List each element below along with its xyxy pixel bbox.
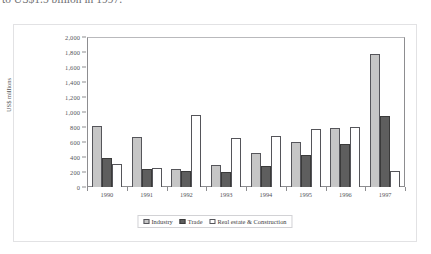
y-axis-labels: 02004006008001,0001,2001,4001,6001,8002,…: [14, 37, 86, 187]
legend-swatch-icon: [180, 219, 186, 225]
legend-item-industry[interactable]: Industry: [143, 218, 172, 225]
y-axis-tick-mark: [82, 52, 86, 53]
x-axis-tick-mark: [405, 187, 406, 191]
y-axis-tick-mark: [82, 97, 86, 98]
y-axis-tick-label: 600: [70, 139, 80, 146]
legend-label: Trade: [188, 218, 203, 225]
y-axis-tick-label: 1,800: [65, 49, 80, 56]
legend-label: Real estate & Construction: [217, 218, 286, 225]
x-axis-label-1995: 1995: [286, 191, 326, 198]
legend-item-trade[interactable]: Trade: [180, 218, 203, 225]
x-axis-label-1997: 1997: [365, 191, 405, 198]
y-axis-tick-mark: [82, 37, 86, 38]
x-axis-label-1993: 1993: [206, 191, 246, 198]
chart-figure: US$ millions 02004006008001,0001,2001,40…: [13, 24, 417, 242]
plot-inner: [88, 38, 404, 186]
y-axis-tick-mark: [82, 187, 86, 188]
y-axis-title: US$ millions: [5, 78, 12, 112]
y-axis-tick-label: 0: [77, 184, 80, 191]
y-axis-tick-mark: [82, 157, 86, 158]
caption-strip: to US$1.5 billion in 1997.: [0, 0, 431, 12]
y-axis-tick-label: 1,000: [65, 109, 80, 116]
y-axis-tick-mark: [82, 127, 86, 128]
chart-legend: IndustryTradeReal estate & Construction: [137, 215, 292, 228]
figure-page: to US$1.5 billion in 1997. US$ millions …: [0, 0, 431, 254]
x-axis-label-1996: 1996: [326, 191, 366, 198]
legend-swatch-icon: [209, 219, 215, 225]
y-axis-tick-mark: [82, 172, 86, 173]
x-axis-label-1991: 1991: [127, 191, 167, 198]
y-axis-tick-label: 200: [70, 169, 80, 176]
x-axis-label-1992: 1992: [167, 191, 207, 198]
y-axis-tick-mark: [82, 112, 86, 113]
plot-area: [87, 37, 405, 187]
y-axis-tick-label: 1,600: [65, 64, 80, 71]
y-axis-tick-label: 1,400: [65, 79, 80, 86]
caption-text: to US$1.5 billion in 1997.: [2, 0, 122, 5]
y-axis-tick-label: 400: [70, 154, 80, 161]
y-axis-tick-mark: [82, 142, 86, 143]
x-axis-labels: 19901991199219931994199519961997: [87, 191, 405, 198]
y-axis-tick-label: 800: [70, 124, 80, 131]
y-axis-tick-mark: [82, 67, 86, 68]
x-axis-label-1990: 1990: [87, 191, 127, 198]
legend-item-real-estate-construction[interactable]: Real estate & Construction: [209, 218, 286, 225]
y-axis-tick-label: 1,200: [65, 94, 80, 101]
y-axis-tick-mark: [82, 82, 86, 83]
y-axis-tick-label: 2,000: [65, 34, 80, 41]
legend-swatch-icon: [143, 219, 149, 225]
legend-label: Industry: [151, 218, 172, 225]
x-axis-label-1994: 1994: [246, 191, 286, 198]
